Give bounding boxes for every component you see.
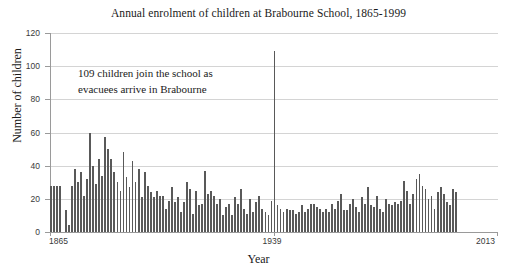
bar <box>286 209 288 232</box>
bar <box>406 191 408 232</box>
y-tick-label: 120 <box>0 28 40 38</box>
bar <box>189 189 191 232</box>
bar <box>322 212 324 232</box>
bar <box>83 196 85 232</box>
bar <box>277 205 279 232</box>
bar <box>162 196 164 232</box>
bar <box>113 172 115 232</box>
bar <box>280 209 282 232</box>
bar <box>77 182 79 232</box>
bar <box>234 197 236 232</box>
bar <box>150 192 152 232</box>
bar <box>355 207 357 232</box>
bar <box>425 189 427 232</box>
bar <box>120 191 122 232</box>
bar <box>370 205 372 232</box>
bar <box>177 197 179 232</box>
bar <box>361 197 363 232</box>
bar <box>400 201 402 233</box>
bar <box>331 204 333 232</box>
bar <box>249 199 251 232</box>
y-tick-label: 40 <box>0 161 40 171</box>
bar <box>107 149 109 232</box>
bar <box>228 204 230 232</box>
bar <box>268 215 270 232</box>
bar <box>219 199 221 232</box>
bar <box>159 196 161 232</box>
bar <box>171 187 173 232</box>
bar <box>56 186 58 232</box>
bar <box>409 204 411 232</box>
bar <box>195 191 197 232</box>
bar <box>301 205 303 232</box>
bar <box>243 209 245 232</box>
bar <box>397 204 399 232</box>
bar <box>258 196 260 232</box>
bar <box>59 186 61 232</box>
bar <box>346 210 348 232</box>
bar <box>123 152 125 232</box>
bar <box>298 212 300 232</box>
bar <box>412 194 414 232</box>
x-tick-label: 1865 <box>49 236 68 246</box>
bar <box>416 179 418 232</box>
bar <box>422 186 424 232</box>
bar <box>434 209 436 232</box>
bar <box>50 186 52 232</box>
bar <box>104 137 106 232</box>
bar <box>437 192 439 232</box>
bar <box>216 204 218 232</box>
bar <box>289 210 291 232</box>
bar <box>446 202 448 232</box>
bar <box>92 166 94 232</box>
bar <box>292 210 294 232</box>
bar <box>237 204 239 232</box>
bar <box>89 133 91 233</box>
bar <box>71 186 73 232</box>
y-tick-label: 20 <box>0 194 40 204</box>
bar <box>283 212 285 232</box>
bar <box>307 209 309 232</box>
bar <box>394 202 396 232</box>
bar <box>240 189 242 232</box>
bar <box>117 182 119 232</box>
x-tick-label: 1939 <box>263 236 282 246</box>
bar <box>440 187 442 232</box>
bar <box>74 169 76 232</box>
y-tick-label: 0 <box>0 227 40 237</box>
bar <box>385 199 387 232</box>
bar <box>198 205 200 232</box>
bar <box>255 202 257 232</box>
bar <box>165 209 167 232</box>
bar <box>222 215 224 232</box>
bar <box>252 212 254 232</box>
bar <box>126 177 128 232</box>
bar <box>138 169 140 232</box>
bar <box>210 191 212 232</box>
bar <box>358 212 360 232</box>
bar <box>180 212 182 232</box>
bar <box>334 209 336 232</box>
bar <box>156 191 158 232</box>
bar <box>129 187 131 232</box>
bar <box>183 202 185 232</box>
bar <box>352 199 354 232</box>
bar <box>110 159 112 232</box>
bar <box>316 207 318 232</box>
bar <box>204 171 206 232</box>
gridline <box>51 232 498 233</box>
bar <box>367 187 369 232</box>
bar <box>403 181 405 232</box>
bar <box>153 197 155 232</box>
bar <box>388 204 390 232</box>
bar <box>225 207 227 232</box>
bar <box>310 204 312 232</box>
bar <box>431 196 433 232</box>
bar <box>313 204 315 232</box>
y-tick-label: 60 <box>0 128 40 138</box>
bar <box>80 172 82 232</box>
bar <box>325 209 327 232</box>
plot-area <box>50 33 497 232</box>
bar <box>135 182 137 232</box>
bar <box>147 186 149 232</box>
